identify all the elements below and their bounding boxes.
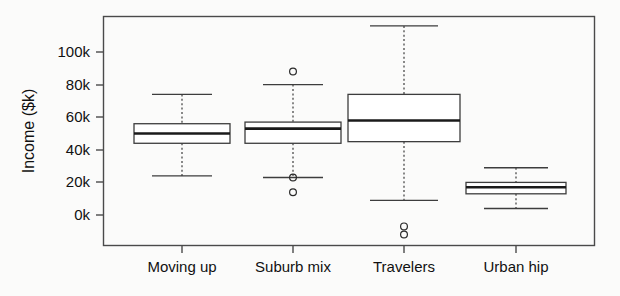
- iqr-box: [245, 122, 341, 143]
- boxplot-suburb-mix: [245, 68, 341, 195]
- boxplot-moving-up: [134, 94, 230, 176]
- y-axis-label: Income ($k): [20, 89, 37, 173]
- box-glyph-layer: [134, 26, 566, 238]
- outlier-point: [401, 223, 408, 230]
- outlier-point: [401, 231, 408, 238]
- x-tick-label-urban-hip: Urban hip: [483, 258, 548, 275]
- x-tick-label-moving-up: Moving up: [147, 258, 216, 275]
- y-tick-label-60k: 60k: [66, 108, 91, 125]
- x-axis-tick-labels: Moving up Suburb mix Travelers Urban hip: [147, 258, 548, 275]
- chart-canvas: 100k 80k 60k 40k 20k 0k Income ($k) Movi…: [0, 0, 620, 296]
- boxplot-travelers: [348, 26, 460, 238]
- outlier-point: [290, 68, 297, 75]
- y-tick-label-40k: 40k: [66, 141, 91, 158]
- iqr-box: [348, 94, 460, 141]
- y-tick-label-0k: 0k: [74, 206, 90, 223]
- x-tick-label-suburb-mix: Suburb mix: [255, 258, 331, 275]
- boxplot-urban-hip: [466, 168, 566, 209]
- y-axis-tick-labels: 100k 80k 60k 40k 20k 0k: [57, 43, 90, 223]
- boxplot-figure: 100k 80k 60k 40k 20k 0k Income ($k) Movi…: [0, 0, 620, 296]
- y-tick-label-20k: 20k: [66, 173, 91, 190]
- outlier-point: [290, 189, 297, 196]
- x-tick-label-travelers: Travelers: [373, 258, 435, 275]
- y-tick-label-100k: 100k: [57, 43, 90, 60]
- y-axis-ticks: [96, 52, 103, 215]
- y-tick-label-80k: 80k: [66, 76, 91, 93]
